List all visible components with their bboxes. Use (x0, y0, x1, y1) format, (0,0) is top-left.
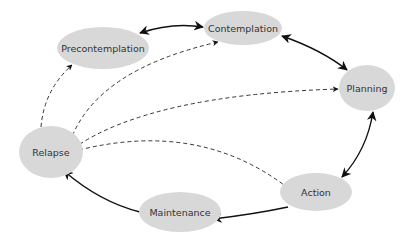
edge-contemplation-planning (282, 36, 347, 70)
edge-relapse-planning (74, 89, 338, 148)
node-label: Contemplation (208, 23, 278, 34)
edge-maintenance-relapse (64, 171, 140, 212)
node-label: Maintenance (149, 207, 210, 218)
node-relapse: Relapse (19, 126, 83, 178)
edge-relapse-action (79, 141, 288, 188)
node-contemplation: Contemplation (204, 11, 282, 45)
stages-of-change-diagram: Precontemplation Contemplation Planning … (0, 0, 409, 237)
node-label: Action (301, 187, 331, 198)
node-label: Planning (347, 83, 388, 94)
edge-precontemplation-contemplation (140, 25, 203, 33)
edge-action-maintenance (213, 207, 288, 219)
node-label: Relapse (32, 147, 69, 158)
edge-relapse-precontemplation (41, 65, 72, 127)
node-action: Action (280, 173, 352, 211)
node-maintenance: Maintenance (139, 192, 221, 232)
node-planning: Planning (339, 65, 395, 111)
edge-planning-action (342, 112, 373, 177)
node-label: Precontemplation (61, 43, 145, 54)
node-precontemplation: Precontemplation (57, 27, 149, 69)
